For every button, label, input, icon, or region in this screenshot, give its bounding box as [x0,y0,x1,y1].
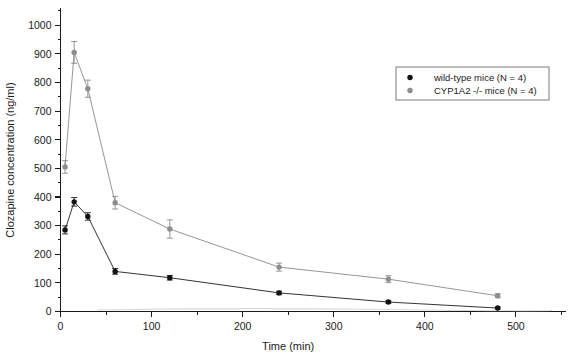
y-axis-tick-label: 200 [34,248,52,260]
x-axis-tick-label: 400 [416,320,434,332]
data-point-marker [112,200,117,205]
x-axis-tick-label: 300 [325,320,343,332]
y-axis-title: Clozapine concentration (ng/ml) [4,82,16,237]
x-axis-tick-label: 100 [143,320,161,332]
data-point-marker [71,199,76,204]
data-point-marker [71,50,76,55]
data-point-marker [276,264,281,269]
y-axis-tick-label: 100 [34,277,52,289]
y-axis-tick-label: 800 [34,76,52,88]
x-axis-tick-label: 200 [234,320,252,332]
legend-marker-wild-type [407,75,412,80]
data-point-marker [85,214,90,219]
y-axis-tick-label: 0 [46,305,52,317]
y-axis-tick-label: 300 [34,219,52,231]
y-axis-tick-label: 600 [34,134,52,146]
y-axis-tick-labels: 01002003004005006007008009001000 [28,19,52,317]
legend-label-cyp1a2-ko: CYP1A2 -/- mice (N = 4) [434,85,537,96]
clozapine-concentration-line-chart: 0100200300400500 01002003004005006007008… [0,0,583,362]
data-point-marker [276,290,281,295]
y-axis-tick-label: 500 [34,162,52,174]
data-point-marker [386,276,391,281]
data-point-marker [386,299,391,304]
x-axis-tick-label: 0 [58,320,64,332]
x-axis-tick-labels: 0100200300400500 [58,320,525,332]
scan-artifact [97,309,552,311]
x-axis-title: Time (min) [262,340,314,352]
y-axis-tick-label: 900 [34,48,52,60]
data-point-marker [62,227,67,232]
data-point-marker [495,293,500,298]
data-point-marker [85,86,90,91]
data-point-marker [167,275,172,280]
data-point-marker [62,164,67,169]
y-axis-tick-label: 1000 [28,19,52,31]
legend: wild-type mice (N = 4)CYP1A2 -/- mice (N… [396,67,549,100]
legend-marker-cyp1a2-ko [407,88,412,93]
x-axis-tick-label: 500 [507,320,525,332]
data-point-marker [167,226,172,231]
legend-label-wild-type: wild-type mice (N = 4) [433,72,526,83]
series-wild-type [62,198,501,311]
data-point-marker [495,305,500,310]
y-axis-tick-label: 700 [34,105,52,117]
chart-figure: 0100200300400500 01002003004005006007008… [0,0,583,362]
data-point-marker [112,269,117,274]
y-axis-tick-label: 400 [34,191,52,203]
